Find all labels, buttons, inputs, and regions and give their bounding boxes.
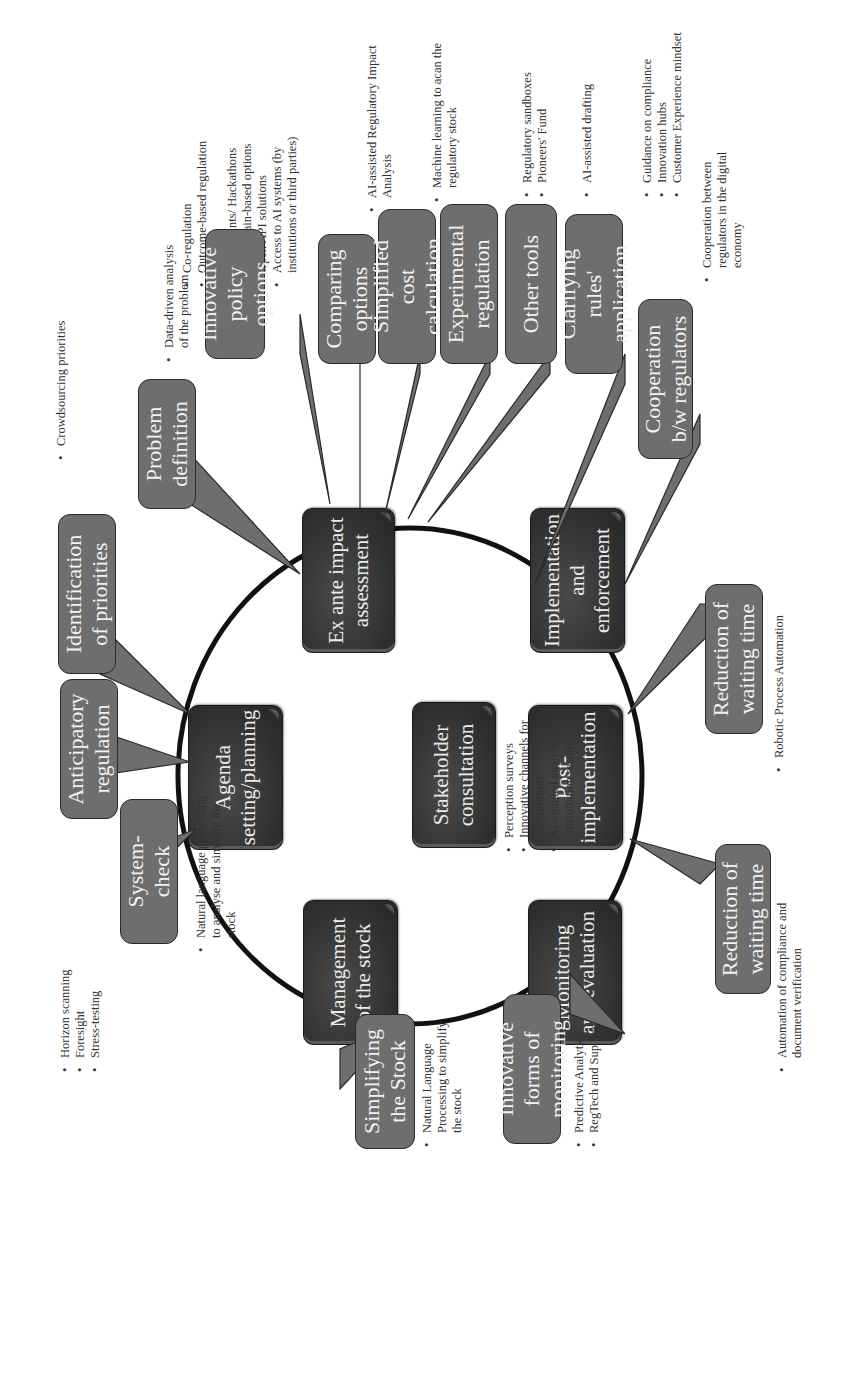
note-item: Guidance on compliance — [640, 9, 655, 199]
note-item: Foresight — [73, 934, 88, 1074]
callout-label: Other tools — [518, 235, 544, 333]
callout-label: Simplifying the Stock — [359, 1025, 411, 1138]
note-item: Natural Language Processing to simplify … — [420, 1009, 465, 1149]
note-item: Machine learning to acan the regulatory … — [430, 14, 460, 204]
regulatory-cycle-diagram: Agenda setting/planning Ex ante impact a… — [0, 0, 845, 1374]
callout-other-tools: Other tools — [505, 204, 557, 364]
callout-problem-definition: Problem definition — [138, 379, 196, 509]
callout-anticipatory-regulation: Anticipatory regulation — [60, 679, 118, 819]
note-item: Horizon scanning — [58, 934, 73, 1074]
note-item: Cooperation between regulators in the di… — [700, 134, 745, 284]
callout-reduction-waiting-time-post: Reduction of waiting time — [715, 844, 771, 994]
stage-label: Implementation and enforcement — [540, 514, 615, 647]
note-item: Innovation hubs — [655, 9, 670, 199]
note-item: Innovative channels for consultation — [517, 684, 547, 854]
cost-notes: Machine learning to acan the regulatory … — [430, 14, 460, 204]
waiting-impl-notes: Robotic Process Automation — [772, 574, 787, 774]
callout-label: Clarifying rules' application — [555, 225, 633, 363]
callout-reduction-waiting-time-implementation: Reduction of waiting time — [705, 584, 763, 734]
comparing-notes: AI-assisted Regulatory Impact Analysis — [365, 24, 395, 214]
simplifying-stock-notes: Natural Language Processing to simplify … — [420, 1009, 465, 1149]
waiting-post-notes: Automation of compliance and document ve… — [775, 854, 805, 1074]
cooperation-notes: Cooperation between regulators in the di… — [700, 134, 745, 284]
callout-label: Problem definition — [141, 390, 193, 498]
callout-label: Experimental regulation — [443, 215, 495, 353]
callout-label: Identification of priorities — [61, 525, 113, 663]
note-item: AI-enabled analysis of consultation resu… — [547, 684, 577, 854]
stage-stakeholder-consultation: Stakeholder consultation — [412, 702, 496, 848]
callout-label: Comparing options — [321, 245, 373, 353]
callout-cooperation-regulators: Cooperation b/w regulators — [638, 299, 693, 459]
callout-simplified-cost: Simplified cost calculation — [378, 209, 436, 364]
callout-simplifying-stock: Simplifying the Stock — [355, 1014, 415, 1149]
stage-implementation-enforcement: Implementation and enforcement — [530, 508, 625, 653]
callout-label: Innovative policy options — [196, 240, 274, 348]
other-tools-notes: AI-assisted drafting — [580, 9, 595, 199]
callout-experimental-regulation: Experimental regulation — [440, 204, 498, 364]
note-item: Perception surveys — [502, 684, 517, 854]
stakeholder-notes: Perception surveys Innovative channels f… — [502, 684, 577, 854]
note-item: RegTech and Sup Tech — [587, 979, 602, 1149]
innovative-monitoring-notes: Predictive Analytics RegTech and Sup Tec… — [572, 979, 602, 1149]
note-item: Stress-testing — [88, 934, 103, 1074]
callout-identification-priorities: Identification of priorities — [58, 514, 116, 674]
note-item: Robotic Process Automation — [772, 574, 787, 774]
callout-label: Reduction of waiting time — [708, 595, 760, 723]
clarifying-notes: Guidance on compliance Innovation hubs C… — [640, 9, 685, 199]
callout-label: System-check — [123, 810, 175, 933]
callout-system-check: System-check — [120, 799, 178, 944]
callout-label: Reduction of waiting time — [717, 855, 769, 983]
note-item: Crowdsourcing priorities — [54, 282, 69, 462]
callout-label: Innovative forms of monitoring — [493, 1005, 571, 1133]
callout-clarifying-rules: Clarifying rules' application — [565, 214, 623, 374]
note-item: AI-assisted drafting — [580, 9, 595, 199]
callout-label: Simplified cost calculation — [368, 220, 446, 353]
note-item: Regulatory sandboxes — [520, 9, 535, 199]
experimental-notes: Regulatory sandboxes Pioneers' Fund — [520, 9, 550, 199]
note-item: Access to AI systems (by institutions or… — [270, 99, 300, 289]
note-item: AI-assisted Regulatory Impact Analysis — [365, 24, 395, 214]
anticipatory-notes: Horizon scanning Foresight Stress-testin… — [58, 934, 103, 1074]
note-item: Co-regulation — [180, 99, 195, 289]
note-item: Automation of compliance and document ve… — [775, 854, 805, 1074]
callout-label: Anticipatory regulation — [63, 690, 115, 808]
callout-innovative-monitoring: Innovative forms of monitoring — [503, 994, 561, 1144]
note-item: Pioneers' Fund — [535, 9, 550, 199]
system-check-notes: Natural language processing to analyse a… — [194, 784, 239, 954]
stage-label: Ex ante impact assessment — [324, 517, 374, 644]
note-item: Predictive Analytics — [572, 979, 587, 1149]
callout-label: Cooperation b/w regulators — [640, 310, 692, 448]
priorities-notes: Crowdsourcing priorities — [54, 282, 69, 462]
callout-innovative-policy-options: Innovative policy options — [205, 229, 265, 359]
note-item: Natural language processing to analyse a… — [194, 784, 239, 954]
stage-ex-ante-impact-assessment: Ex ante impact assessment — [302, 508, 395, 653]
stage-label: Stakeholder consultation — [429, 711, 479, 839]
note-item: Customer Experience mindset — [670, 9, 685, 199]
